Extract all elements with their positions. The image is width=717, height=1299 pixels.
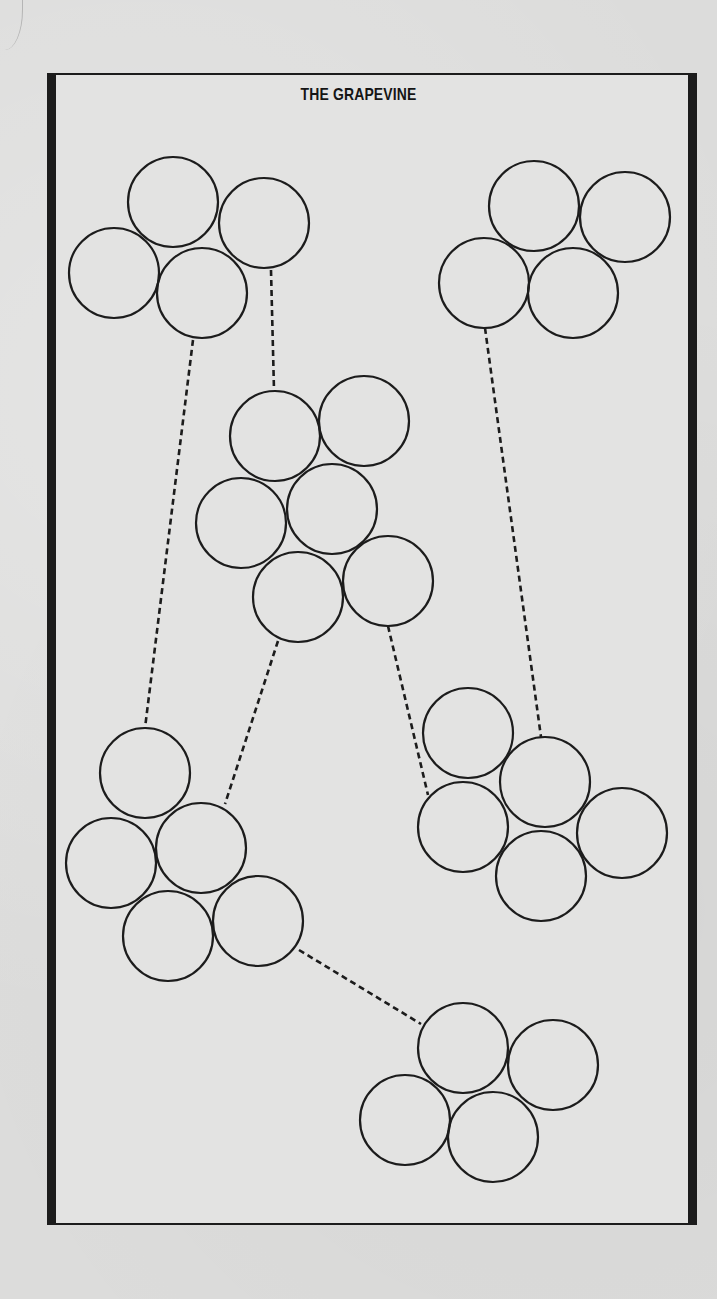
person-circle <box>123 891 213 981</box>
dashed-connection-top-left-to-bottom-left <box>145 340 193 728</box>
person-circle <box>439 238 529 328</box>
grapevine-diagram <box>0 0 717 1299</box>
person-circle <box>196 478 286 568</box>
dashed-connection-top-left-to-middle <box>271 270 274 390</box>
person-circle <box>418 782 508 872</box>
cluster-middle <box>196 376 433 642</box>
person-circle <box>230 391 320 481</box>
person-circle <box>253 552 343 642</box>
dashed-connection-middle-to-bottom-left <box>225 641 278 804</box>
cluster-top-right <box>439 161 670 338</box>
person-circle <box>157 248 247 338</box>
cluster-bottom <box>360 1003 598 1182</box>
dashed-connection-top-right-to-bottom-right <box>485 328 541 737</box>
person-circle <box>69 228 159 318</box>
person-circle <box>100 728 190 818</box>
person-circle <box>66 818 156 908</box>
person-circle <box>528 248 618 338</box>
person-circle <box>577 788 667 878</box>
clusters <box>66 157 670 1182</box>
person-circle <box>508 1020 598 1110</box>
person-circle <box>580 172 670 262</box>
dashed-connection-middle-to-bottom-right <box>388 626 428 795</box>
person-circle <box>423 688 513 778</box>
person-circle <box>343 536 433 626</box>
person-circle <box>500 737 590 827</box>
person-circle <box>360 1075 450 1165</box>
person-circle <box>128 157 218 247</box>
person-circle <box>448 1092 538 1182</box>
person-circle <box>489 161 579 251</box>
person-circle <box>496 831 586 921</box>
person-circle <box>213 876 303 966</box>
person-circle <box>219 178 309 268</box>
cluster-bottom-left <box>66 728 303 981</box>
person-circle <box>418 1003 508 1093</box>
dashed-connection-bottom-left-to-bottom <box>299 950 421 1024</box>
cluster-bottom-right <box>418 688 667 921</box>
person-circle <box>319 376 409 466</box>
person-circle <box>156 803 246 893</box>
person-circle <box>287 464 377 554</box>
